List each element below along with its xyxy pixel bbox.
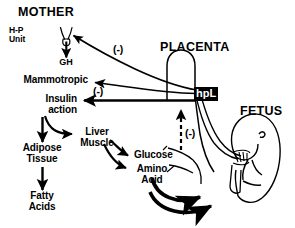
node-liver-muscle: Liver Muscle bbox=[80, 127, 113, 148]
hpl-hormone-label: hpL bbox=[194, 87, 218, 101]
umbilical-cord-icon bbox=[196, 92, 241, 159]
sign-negative-fetal-feedback: (-) bbox=[185, 128, 195, 139]
sign-negative-gh-feedback: (-) bbox=[113, 44, 123, 55]
sign-negative-insulin: (-) bbox=[93, 86, 103, 97]
placenta-outline-icon bbox=[167, 50, 214, 172]
node-glucose: Glucose bbox=[134, 150, 173, 161]
diagram-canvas: MOTHER PLACENTA FETUS H-P Unit GH Mammot… bbox=[0, 0, 295, 228]
node-amino-acid: Amino Acid bbox=[137, 164, 168, 185]
node-fatty-acids: Fatty Acids bbox=[29, 191, 56, 212]
node-adipose-tissue: Adipose Tissue bbox=[23, 143, 62, 164]
section-title-placenta: PLACENTA bbox=[160, 41, 230, 54]
node-mammotropic: Mammotropic bbox=[24, 75, 88, 86]
hpl-to-mammotropic-arrow bbox=[95, 83, 196, 94]
nutrient-transfer-arrow-lower bbox=[150, 192, 211, 212]
insulin-to-liver-muscle-arrow bbox=[45, 116, 72, 134]
node-gh: GH bbox=[59, 58, 72, 67]
node-insulin-action: Insulin action bbox=[45, 94, 77, 115]
fetus-outline-icon bbox=[232, 114, 281, 202]
section-title-fetus: FETUS bbox=[240, 105, 282, 118]
node-hp-unit: H-P Unit bbox=[9, 26, 25, 44]
section-title-mother: MOTHER bbox=[18, 6, 74, 19]
cord-insertion-hatching bbox=[233, 150, 250, 165]
